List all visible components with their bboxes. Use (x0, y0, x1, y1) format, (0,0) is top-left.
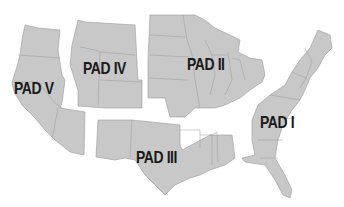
pad-district-map (0, 0, 344, 207)
label-pad-1: PAD I (260, 113, 294, 133)
label-pad-5: PAD V (14, 79, 54, 99)
label-pad-4: PAD IV (83, 59, 126, 79)
label-pad-3: PAD III (136, 148, 177, 168)
label-pad-2: PAD II (187, 55, 225, 75)
